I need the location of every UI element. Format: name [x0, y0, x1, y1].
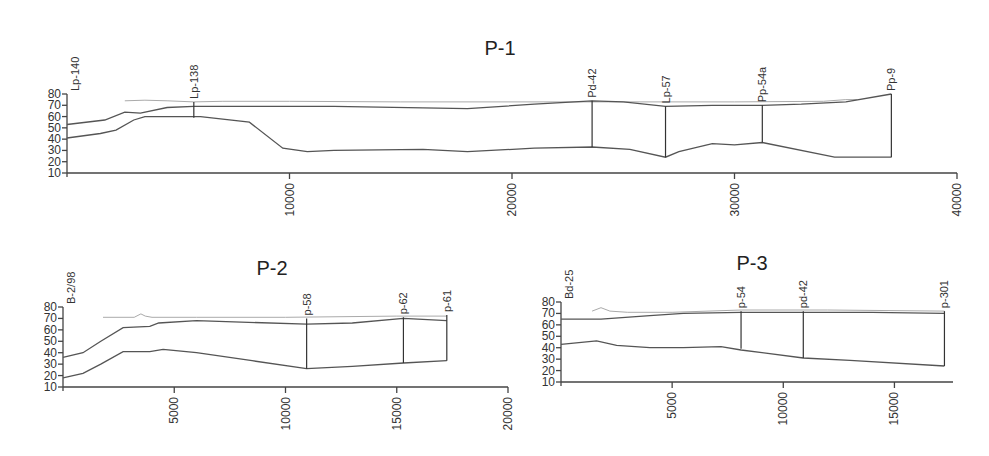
x-tick-label: 10000	[279, 397, 293, 431]
borehole-label: Lp-57	[660, 75, 672, 103]
series-water-table	[125, 100, 857, 102]
x-tick-label: 20000	[501, 397, 515, 431]
borehole-label: p-301	[938, 280, 950, 308]
borehole-label: Pp-9	[885, 68, 897, 91]
x-tick-label: 5000	[665, 392, 679, 419]
series-bedrock	[67, 117, 891, 158]
borehole-label: p-54	[735, 286, 747, 308]
y-tick-label: 80	[542, 295, 556, 309]
x-tick-label: 5000	[167, 397, 181, 424]
plot-area-p3: 102030405060708050001000015000Bd-25p-54p…	[542, 270, 953, 426]
y-tick-label: 80	[48, 87, 62, 101]
chart-p2: P-2 10203040506070805000100001500020000B…	[44, 257, 515, 430]
borehole-label: Pd-42	[586, 68, 598, 97]
series-water-table	[592, 308, 944, 313]
borehole-label: p-61	[441, 290, 453, 312]
series-bedrock	[63, 349, 447, 378]
x-tick-label: 20000	[505, 183, 519, 217]
plot-area-p1: 102030405060708010000200003000040000Lp-1…	[48, 57, 964, 217]
x-tick-label: 10000	[283, 183, 297, 217]
series-water-table	[103, 314, 447, 317]
borehole-label: B-2/98	[65, 272, 77, 304]
borehole-label: Lp-140	[69, 57, 81, 91]
x-tick-label: 10000	[776, 392, 790, 426]
borehole-label: p-58	[301, 293, 313, 315]
y-tick-label: 80	[44, 300, 58, 314]
x-tick-label: 15000	[390, 397, 404, 431]
chart-title-p1: P-1	[484, 37, 515, 59]
chart-p3: P-3 102030405060708050001000015000Bd-25p…	[542, 252, 953, 425]
plot-area-p2: 10203040506070805000100001500020000B-2/9…	[44, 272, 515, 431]
borehole-label: Bd-25	[563, 270, 575, 299]
x-tick-label: 30000	[728, 183, 742, 217]
series-ground-surface	[63, 318, 447, 357]
x-tick-label: 40000	[950, 183, 964, 217]
chart-p1: P-1 102030405060708010000200003000040000…	[48, 37, 964, 216]
borehole-label: p-62	[397, 292, 409, 314]
series-ground-surface	[561, 312, 944, 319]
series-bedrock	[561, 341, 944, 366]
x-tick-label: 15000	[887, 392, 901, 426]
borehole-label: Pp-54a	[756, 66, 768, 102]
chart-title-p3: P-3	[736, 252, 767, 274]
profile-charts: P-1 102030405060708010000200003000040000…	[0, 0, 989, 456]
chart-title-p2: P-2	[256, 257, 287, 279]
borehole-label: pd-42	[797, 280, 809, 308]
borehole-label: Lp-138	[188, 65, 200, 99]
